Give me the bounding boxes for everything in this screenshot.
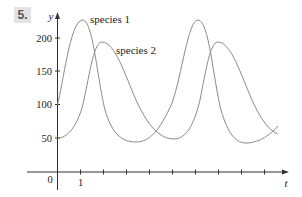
origin-label: 0 (47, 174, 52, 185)
species-2-curve (58, 42, 279, 139)
population-chart: 200 150 100 50 0 1 y t species 1 species… (0, 0, 302, 197)
species-1-curve (58, 20, 279, 143)
species-1-label: species 1 (90, 13, 130, 25)
axes (27, 16, 284, 190)
y-tick-200: 200 (36, 33, 52, 44)
x-tick-1: 1 (78, 177, 83, 188)
x-axis-arrow-icon (282, 170, 289, 175)
y-axis-arrow-icon (55, 12, 60, 19)
x-axis-label: t (284, 177, 288, 189)
y-axis-label: y (48, 10, 54, 22)
y-tick-50: 50 (42, 133, 53, 144)
y-tick-100: 100 (36, 99, 52, 110)
y-tick-150: 150 (36, 66, 52, 77)
species-2-label: species 2 (116, 44, 156, 56)
